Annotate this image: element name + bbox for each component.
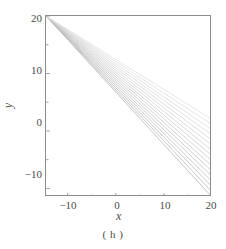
figure-panel: 20 10 0 −10 −10 0 10 20 y x ( h ) <box>0 0 226 249</box>
data-line <box>46 16 211 181</box>
data-line <box>46 16 211 125</box>
y-axis-title: y <box>1 103 16 108</box>
data-line <box>46 16 211 145</box>
data-line <box>46 16 211 150</box>
data-line <box>46 16 211 156</box>
data-line <box>46 16 211 171</box>
y-tick-label-10: 10 <box>18 65 42 76</box>
data-line <box>46 16 211 161</box>
data-line <box>46 16 211 196</box>
figure-caption: ( h ) <box>0 228 226 240</box>
x-tick-label-minus-10: −10 <box>59 200 76 211</box>
data-line <box>46 16 211 135</box>
data-line <box>46 16 211 192</box>
plot-canvas <box>46 16 211 196</box>
data-line <box>46 16 211 166</box>
x-tick-label-10: 10 <box>160 200 171 211</box>
y-tick-label-minus-10: −10 <box>14 169 42 180</box>
y-tick-label-20: 20 <box>18 13 42 24</box>
data-line <box>46 16 211 187</box>
plot-frame <box>45 15 211 196</box>
data-line-group <box>46 16 211 196</box>
data-line <box>46 16 211 130</box>
x-axis-title: x <box>116 209 121 224</box>
data-line <box>46 16 211 176</box>
y-tick-label-0: 0 <box>18 117 42 128</box>
x-tick-label-20: 20 <box>206 200 217 211</box>
data-line <box>46 16 211 140</box>
